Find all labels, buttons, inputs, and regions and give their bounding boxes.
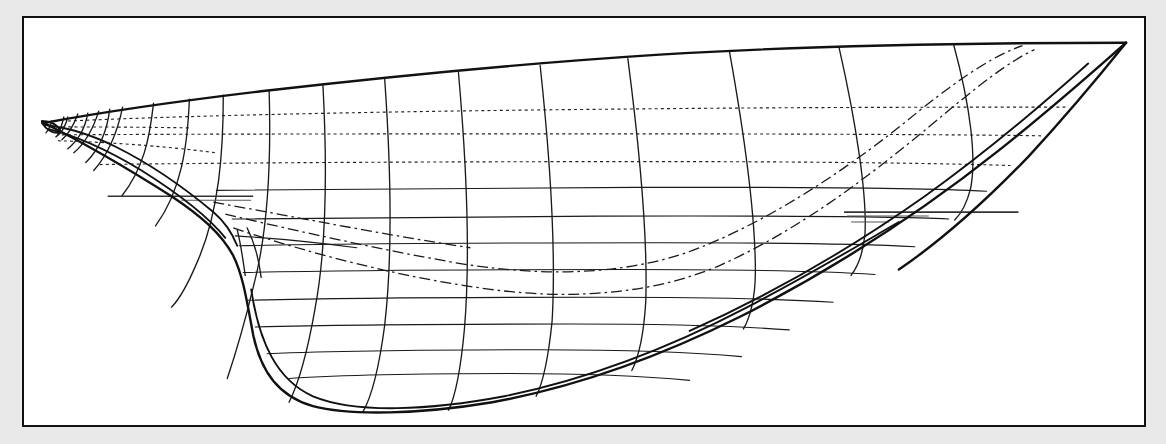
station-11	[448, 72, 467, 410]
waterline-dotted-2	[62, 134, 1042, 136]
bottom-rocker-line	[251, 222, 899, 408]
waterline-solid-2	[232, 216, 948, 219]
forefoot-fairing-line	[48, 129, 225, 238]
reference-line-group	[108, 196, 1019, 222]
drawing-sheet: Hull lines plan: sheer (profile) view. B…	[22, 16, 1146, 427]
aft-run-fairing	[690, 64, 1089, 331]
station-8	[227, 90, 269, 378]
diagonal-upper	[225, 46, 1022, 272]
waterline-solid-8	[289, 374, 690, 381]
hull-lines-plan-svg	[24, 18, 1144, 425]
transom-edge	[899, 43, 1126, 270]
waterline-solid-5	[248, 297, 833, 302]
station-12	[536, 66, 553, 397]
waterline-solid-7	[267, 350, 741, 357]
station-9	[289, 85, 325, 402]
station-6	[156, 99, 190, 226]
station-14	[729, 52, 755, 329]
waterline-solid-1	[216, 187, 986, 191]
waterline-group	[62, 107, 1066, 380]
deck-sheer-line	[44, 43, 1126, 123]
diagonal-bow-upper-short	[213, 202, 470, 248]
waterline-solid-4	[243, 270, 875, 275]
waterline-dotted-1	[68, 107, 1066, 121]
station-16	[954, 45, 973, 220]
forward-lower-group	[235, 228, 357, 278]
waterline-dotted-3	[100, 162, 1011, 166]
